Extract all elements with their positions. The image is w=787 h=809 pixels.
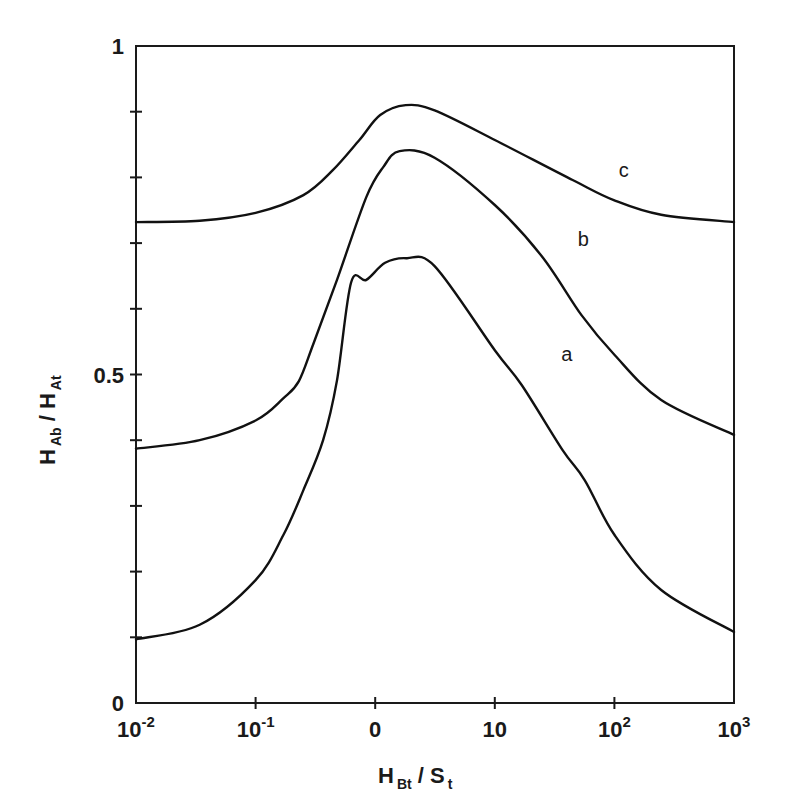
curve-label-b: b bbox=[578, 228, 589, 250]
y-tick-label: 0 bbox=[112, 691, 124, 716]
curve-label-c: c bbox=[619, 159, 629, 181]
y-tick-label: 1 bbox=[112, 34, 124, 59]
x-axis-title: HBt / St bbox=[378, 763, 453, 792]
chart-canvas: 00.51 10-210-1010102103 abc HBt / St HAb… bbox=[0, 0, 787, 809]
y-tick-label: 0.5 bbox=[93, 363, 124, 388]
x-tick-label: 10 bbox=[483, 717, 507, 742]
curve-label-a: a bbox=[561, 343, 573, 365]
x-tick-label: 0 bbox=[369, 717, 381, 742]
